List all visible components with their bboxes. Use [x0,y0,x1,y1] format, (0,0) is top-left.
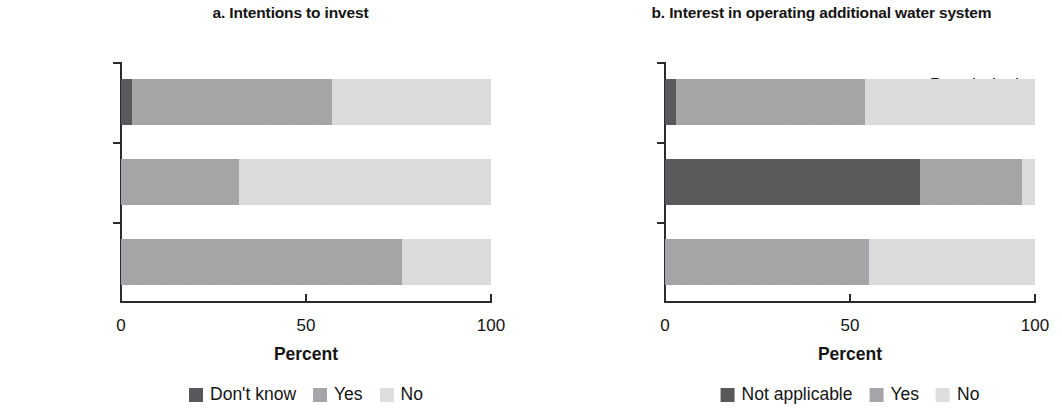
panel-b-legend-item-no: No [936,386,979,404]
panel-b-bar-benin-seg-yes [920,159,1022,205]
panel-a-y-tick-1 [113,142,121,144]
panel-b-x-tick-0 [664,294,666,303]
panel-a-bar-benin [121,159,491,205]
panel-a-legend-label-dontknow: Don't know [210,386,296,404]
panel-a-legend-label-yes: Yes [334,386,363,404]
stacked-bar-chart-figure: a. Intentions to invest Bangladesh Benin… [0,0,1062,418]
panel-b-y-tick-2 [657,222,665,224]
panel-a-bar-benin-seg-no [239,159,491,205]
panel-a-bar-bangladesh-seg-no [332,79,491,125]
panel-b-x-tick-50 [849,294,851,303]
panel-a-plot-area: 0 50 100 [121,62,491,302]
panel-a-legend: Don't know Yes No [189,386,423,404]
panel-b-x-tick-label-0: 0 [660,316,669,336]
panel-b-bar-benin-seg-notapplicable [665,159,920,205]
panel-b-bar-cambodia-seg-no [869,239,1036,285]
panel-b-x-tick-100 [1034,294,1036,303]
panel-b-y-tick-1 [657,142,665,144]
panel-a-x-tick-0 [120,294,122,303]
panel-b-bar-benin [665,159,1035,205]
panel-b-title: b. Interest in operating additional wate… [591,4,1052,23]
panel-a-x-axis-title: Percent [274,344,338,365]
panel-a-x-tick-label-0: 0 [116,316,125,336]
panel-b-legend-item-notapplicable: Not applicable [721,386,853,404]
panel-a-legend-label-no: No [401,386,423,404]
panel-a-bar-bangladesh-seg-yes [132,79,332,125]
panel-a: a. Intentions to invest Bangladesh Benin… [0,0,531,418]
panel-b-x-tick-label-50: 50 [841,316,860,336]
panel-a-title: a. Intentions to invest [60,4,521,23]
panel-a-legend-item-yes: Yes [313,386,363,404]
panel-b-bar-cambodia [665,239,1035,285]
panel-b-legend-label-notapplicable: Not applicable [742,386,853,404]
panel-a-x-tick-50 [305,294,307,303]
panel-a-bar-cambodia-seg-no [402,239,491,285]
panel-b-bar-bangladesh-seg-notapplicable [665,79,676,125]
panel-b-y-tick-top [657,62,665,64]
panel-b-x-tick-label-100: 100 [1021,316,1049,336]
panel-b-legend-swatch-yes [869,388,883,402]
panel-a-y-tick-2 [113,222,121,224]
panel-b-bar-benin-seg-no [1022,159,1035,205]
panel-b-bar-bangladesh-seg-no [865,79,1035,125]
panel-a-bar-benin-seg-yes [121,159,239,205]
panel-b-legend-swatch-no [936,388,950,402]
panel-b-bar-bangladesh [665,79,1035,125]
panel-a-x-tick-label-100: 100 [477,316,505,336]
panel-b-legend: Not applicable Yes No [721,386,980,404]
panel-b-plot-area: 0 50 100 [665,62,1035,302]
panel-a-bar-cambodia-seg-yes [121,239,402,285]
panel-a-legend-item-dontknow: Don't know [189,386,296,404]
panel-a-legend-item-no: No [380,386,423,404]
panel-b-x-axis-title: Percent [818,344,882,365]
panel-b-legend-swatch-notapplicable [721,388,735,402]
panel-a-legend-swatch-yes [313,388,327,402]
panel-b-legend-label-no: No [957,386,979,404]
panel-b: b. Interest in operating additional wate… [531,0,1062,418]
panel-b-legend-item-yes: Yes [869,386,919,404]
panel-a-x-tick-100 [490,294,492,303]
panel-a-bar-bangladesh [121,79,491,125]
panel-a-legend-swatch-dontknow [189,388,203,402]
panel-a-legend-swatch-no [380,388,394,402]
panel-b-bar-cambodia-seg-yes [665,239,869,285]
panel-a-x-tick-label-50: 50 [297,316,316,336]
panel-a-bar-cambodia [121,239,491,285]
panel-b-legend-label-yes: Yes [890,386,919,404]
panel-a-y-tick-top [113,62,121,64]
panel-a-bar-bangladesh-seg-dontknow [121,79,132,125]
panel-b-bar-bangladesh-seg-yes [676,79,865,125]
